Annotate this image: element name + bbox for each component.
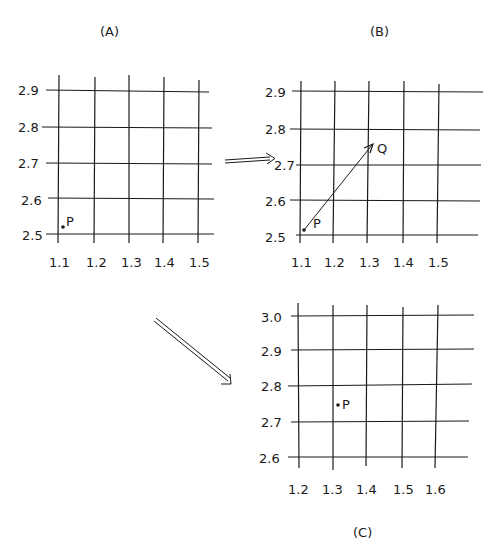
y-tick: 3.0 [261, 310, 282, 325]
panel-c-title: (C) [353, 525, 372, 540]
point-p-label: P [342, 397, 350, 412]
panel-b-title: (B) [370, 24, 389, 39]
point-p-marker [336, 403, 340, 407]
x-tick: 1.4 [154, 255, 175, 270]
panel-b: (B) 2.9 2.8 2.7 2.6 2.5 1.1 1.2 1.3 1.4 [265, 24, 483, 270]
y-tick: 2.6 [21, 193, 42, 208]
x-tick: 1.4 [356, 482, 377, 497]
x-tick: 1.5 [428, 255, 449, 270]
y-tick: 2.7 [18, 156, 39, 171]
point-p-label: P [313, 216, 321, 231]
x-tick: 1.2 [288, 482, 309, 497]
translation-diagram: (A) 2.9 2.8 2.7 2.6 2.5 1.1 1.2 [0, 0, 494, 554]
point-q-label: Q [377, 141, 387, 156]
y-tick: 2.9 [261, 344, 282, 359]
y-tick: 2.7 [261, 415, 282, 430]
y-tick: 2.7 [274, 158, 295, 173]
panel-b-horizontal-gridlines [290, 91, 483, 235]
y-tick: 2.8 [265, 122, 286, 137]
x-tick: 1.1 [291, 255, 312, 270]
panel-a-x-axis-labels: 1.1 1.2 1.3 1.4 1.5 [49, 255, 210, 270]
double-arrow-down-right-icon [154, 318, 231, 384]
y-tick: 2.9 [18, 83, 39, 98]
panel-c: 3.0 2.9 2.8 2.7 2.6 1.2 1.3 1.4 1.5 1.6 … [259, 303, 474, 540]
x-tick: 1.6 [425, 482, 446, 497]
y-tick: 2.8 [18, 120, 39, 135]
y-tick: 2.8 [261, 379, 282, 394]
double-arrow-right-icon [225, 153, 275, 164]
panel-c-horizontal-gridlines [288, 315, 474, 457]
panel-a-horizontal-gridlines [42, 90, 214, 234]
panel-b-y-axis-labels: 2.9 2.8 2.7 2.6 2.5 [265, 85, 295, 245]
panel-b-x-axis-labels: 1.1 1.2 1.3 1.4 1.5 [291, 255, 449, 270]
x-tick: 1.5 [393, 482, 414, 497]
y-tick: 2.6 [259, 451, 280, 466]
panel-a-vertical-gridlines [58, 75, 199, 243]
point-p-label: P [66, 214, 74, 229]
y-tick: 2.6 [265, 194, 286, 209]
panel-a-title: (A) [100, 24, 119, 39]
x-tick: 1.2 [324, 255, 345, 270]
x-tick: 1.3 [359, 255, 380, 270]
panel-c-x-axis-labels: 1.2 1.3 1.4 1.5 1.6 [288, 482, 446, 497]
y-tick: 2.9 [265, 85, 286, 100]
panel-c-y-axis-labels: 3.0 2.9 2.8 2.7 2.6 [259, 310, 282, 466]
x-tick: 1.2 [86, 255, 107, 270]
y-tick: 2.5 [22, 228, 43, 243]
x-tick: 1.4 [393, 255, 414, 270]
panel-b-vertical-gridlines [300, 81, 439, 243]
panel-c-vertical-gridlines [298, 303, 438, 470]
x-tick: 1.3 [322, 482, 343, 497]
y-tick: 2.5 [265, 230, 286, 245]
x-tick: 1.5 [189, 255, 210, 270]
x-tick: 1.1 [49, 255, 70, 270]
x-tick: 1.3 [121, 255, 142, 270]
panel-a: (A) 2.9 2.8 2.7 2.6 2.5 1.1 1.2 [18, 24, 214, 270]
panel-a-y-axis-labels: 2.9 2.8 2.7 2.6 2.5 [18, 83, 43, 243]
point-p-marker [61, 225, 65, 229]
